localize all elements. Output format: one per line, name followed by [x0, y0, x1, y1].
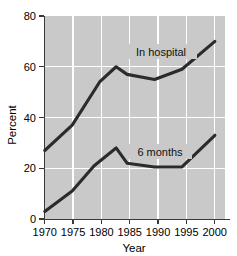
- y-tick-label-60: 60: [24, 61, 36, 73]
- y-tick-label-0: 0: [30, 213, 36, 225]
- x-tick-label-1970: 1970: [33, 226, 57, 238]
- x-tick-label-1975: 1975: [61, 226, 85, 238]
- y-tick-label-40: 40: [24, 112, 36, 124]
- x-tick-label-1980: 1980: [89, 226, 113, 238]
- y-tick-label-20: 20: [24, 162, 36, 174]
- y-tick-label-80: 80: [24, 10, 36, 22]
- x-axis-title: Year: [122, 242, 145, 254]
- line-chart: 0 20 40 60 80 1970 1975 1980 1985 1990 1…: [0, 0, 237, 256]
- series-label-in-hospital: In hospital: [136, 46, 186, 58]
- x-tick-label-1985: 1985: [117, 226, 141, 238]
- x-tick-label-2000: 2000: [202, 226, 226, 238]
- y-axis-title: Percent: [6, 104, 18, 144]
- x-axis-tick-labels: 1970 1975 1980 1985 1990 1995 2000: [33, 226, 227, 238]
- chart-figure: 0 20 40 60 80 1970 1975 1980 1985 1990 1…: [0, 0, 237, 256]
- series-label-6-months: 6 months: [137, 146, 183, 158]
- x-tick-label-1990: 1990: [146, 226, 170, 238]
- y-axis-ticks: [39, 16, 44, 219]
- y-axis-tick-labels: 0 20 40 60 80: [24, 10, 36, 225]
- x-tick-label-1995: 1995: [174, 226, 198, 238]
